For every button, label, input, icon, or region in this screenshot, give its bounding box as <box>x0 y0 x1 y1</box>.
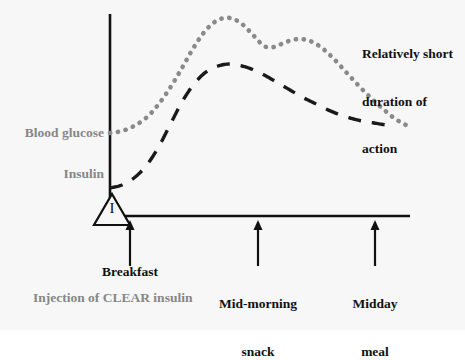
injection-marker-letter: I <box>100 200 124 217</box>
mid-morning-axis-label: Mid-morning snack <box>206 264 310 360</box>
duration-note: Relatively short duration of action <box>362 14 453 189</box>
breakfast-axis-label: Breakfast <box>78 264 182 280</box>
duration-note-line-1: Relatively short <box>362 46 453 62</box>
arrow-midday-meal <box>371 220 380 266</box>
insulin-curve <box>110 64 392 188</box>
insulin-legend-label: Insulin <box>0 166 104 182</box>
arrow-mid-morning-snack <box>254 220 263 266</box>
mid-morning-label-line-1: Mid-morning <box>206 296 310 312</box>
midday-axis-label: Midday meal <box>323 264 427 360</box>
mid-morning-label-line-2: snack <box>206 344 310 360</box>
arrow-breakfast <box>126 220 135 266</box>
midday-label-line-2: meal <box>323 344 427 360</box>
duration-note-line-3: action <box>362 141 453 157</box>
duration-note-line-2: duration of <box>362 94 453 110</box>
injection-note-label: Injection of CLEAR insulin <box>33 290 192 306</box>
blood-glucose-legend-label: Blood glucose <box>0 125 104 141</box>
midday-label-line-1: Midday <box>323 296 427 312</box>
